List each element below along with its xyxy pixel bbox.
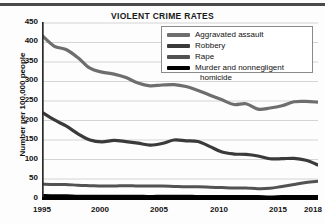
x-tick-2015: 2015: [258, 206, 298, 214]
legend-label-murder-line2: homicide: [200, 73, 308, 82]
legend-item-robbery: Robbery: [167, 41, 308, 51]
y-tick-250: 250: [14, 96, 38, 104]
legend-item-murder: Murder and nonnegligent: [167, 63, 308, 73]
y-tick-400: 400: [14, 37, 38, 45]
series-line-murder-and-nonnegligent-homicide: [42, 195, 318, 197]
legend-item-aggravated-assault: Aggravated assault: [167, 30, 308, 40]
legend-swatch-aggravated-assault: [167, 33, 190, 37]
y-tick-350: 350: [14, 57, 38, 65]
legend-swatch-rape: [167, 55, 190, 59]
top-rule-divider: [0, 3, 325, 6]
y-tick-300: 300: [14, 76, 38, 84]
chart-title: VIOLENT CRIME RATES: [0, 11, 325, 21]
x-tick-2010: 2010: [199, 206, 239, 214]
series-line-rape: [42, 181, 318, 188]
legend-item-rape: Rape: [167, 52, 308, 62]
y-tick-100: 100: [14, 155, 38, 163]
y-tick-50: 50: [14, 174, 38, 182]
y-tick-0: 0: [14, 194, 38, 202]
x-tick-2000: 2000: [80, 206, 120, 214]
legend-label-aggravated-assault: Aggravated assault: [195, 30, 264, 40]
legend-label-murder: Murder and nonnegligent: [195, 63, 284, 73]
chart-figure: VIOLENT CRIME RATES Number per 100,000 p…: [0, 0, 325, 224]
y-tick-450: 450: [14, 18, 38, 26]
x-tick-1995: 1995: [22, 206, 62, 214]
legend-box: Aggravated assault Robbery Rape Murder a…: [161, 26, 313, 73]
legend-swatch-murder: [167, 66, 190, 70]
y-tick-200: 200: [14, 116, 38, 124]
legend-swatch-robbery: [167, 44, 190, 48]
y-axis-title: Number per 100,000 people: [18, 20, 27, 190]
legend-label-rape: Rape: [195, 52, 214, 62]
x-tick-2005: 2005: [139, 206, 179, 214]
y-tick-150: 150: [14, 135, 38, 143]
legend-label-robbery: Robbery: [195, 41, 225, 51]
x-tick-2018: 2018: [293, 206, 325, 214]
